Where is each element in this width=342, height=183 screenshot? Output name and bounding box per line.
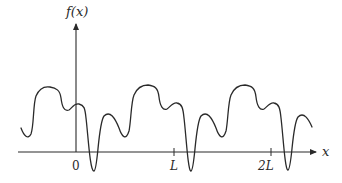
tick-label-0: 0 [72,159,80,173]
x-axis-label: x [322,144,330,159]
tick-label-2L: 2L [257,159,274,173]
tick-label-L: L [169,159,178,173]
function-plot: f(x) x 0 L 2L [0,0,342,183]
y-axis-label: f(x) [65,4,88,19]
